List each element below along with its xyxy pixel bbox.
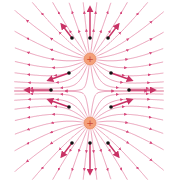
positive-charge-top: + (79, 48, 101, 70)
field-line (15, 94, 88, 118)
field-line (96, 121, 163, 133)
field-line (96, 124, 164, 150)
electric-field-diagram: ++ (0, 0, 176, 187)
field-line (94, 99, 164, 118)
field-vector-arrow (62, 143, 72, 156)
field-line (15, 48, 84, 61)
field-line (92, 3, 111, 54)
field-point (70, 141, 74, 145)
field-line (15, 61, 85, 67)
field-line (14, 65, 89, 91)
field-line (15, 114, 85, 120)
field-line (15, 31, 85, 58)
field-line (69, 129, 88, 180)
field-vector-arrow (111, 73, 131, 80)
field-line (14, 99, 86, 118)
field-point (106, 141, 110, 145)
field-point (67, 71, 71, 75)
field-vector-arrow (108, 143, 118, 156)
field-point (88, 141, 92, 145)
field-point (67, 105, 71, 109)
charges: ++ (79, 48, 101, 134)
field-line (96, 32, 164, 58)
field-line (69, 3, 88, 54)
field-line (94, 128, 128, 180)
field-line (94, 64, 164, 83)
field-line (15, 65, 88, 89)
field-line (32, 2, 85, 55)
field-line (95, 2, 148, 55)
field-line (94, 2, 128, 54)
field-point (70, 36, 74, 40)
field-point (106, 36, 110, 40)
field-line (96, 114, 164, 120)
field-point (49, 88, 53, 92)
plus-sign-icon: + (86, 118, 94, 128)
field-line (14, 91, 89, 117)
field-point (109, 71, 113, 75)
field-line (95, 127, 148, 180)
field-vectors (26, 8, 154, 173)
field-line (32, 127, 85, 180)
field-point (109, 105, 113, 109)
field-line (15, 124, 85, 151)
field-line (96, 49, 163, 61)
field-line (15, 121, 84, 134)
field-line (96, 61, 164, 67)
field-point (127, 88, 131, 92)
field-point (88, 36, 92, 40)
plus-sign-icon: + (86, 54, 94, 64)
field-vector-arrow (49, 73, 69, 80)
field-line (53, 128, 87, 180)
field-lines (14, 2, 164, 179)
field-line (91, 91, 164, 117)
field-line (91, 65, 164, 91)
field-line (53, 2, 87, 54)
positive-charge-bottom: + (79, 112, 101, 134)
field-line (92, 129, 111, 180)
